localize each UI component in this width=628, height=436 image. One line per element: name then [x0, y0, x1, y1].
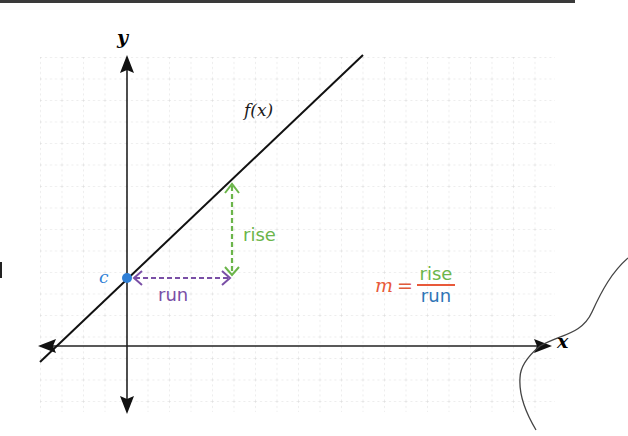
formula-fraction: rise run — [417, 264, 455, 306]
formula-numerator: rise — [420, 264, 453, 284]
function-label: f(x) — [244, 102, 273, 119]
formula-denominator: run — [421, 286, 451, 306]
grid — [40, 57, 555, 412]
rise-label: rise — [243, 226, 276, 244]
x-axis-label: x — [557, 332, 568, 351]
intercept-point — [122, 273, 132, 283]
formula-lhs: m — [375, 274, 393, 296]
y-axis-label: y — [117, 28, 128, 47]
intercept-label: c — [99, 269, 109, 286]
slope-formula: m = rise run — [375, 262, 455, 308]
run-label: run — [158, 286, 188, 304]
slope-diagram — [0, 0, 628, 436]
formula-equals: = — [397, 274, 413, 296]
